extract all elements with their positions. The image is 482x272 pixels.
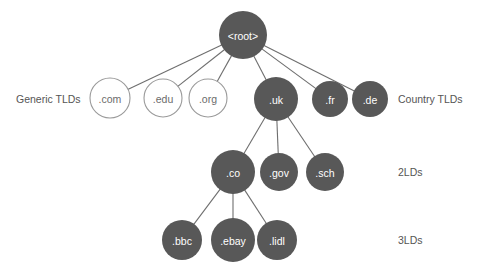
node-fr[interactable]: .fr: [312, 81, 348, 117]
node-label-lidl: .lidl: [269, 235, 285, 247]
node-gov[interactable]: .gov: [260, 153, 298, 191]
node-label-co: .co: [226, 167, 240, 179]
node-co[interactable]: .co: [211, 150, 255, 194]
node-label-ebay: .ebay: [220, 235, 246, 247]
node-sch[interactable]: .sch: [306, 153, 344, 191]
edge-root-to-uk: [254, 55, 267, 80]
edge-co-to-bbc: [193, 189, 220, 225]
side-label-generic-tlds: Generic TLDs: [16, 93, 81, 105]
node-label-edu: .edu: [153, 93, 174, 105]
node-label-gov: .gov: [269, 167, 290, 179]
node-layer: <root>.com.edu.org.uk.fr.de.co.gov.sch.b…: [90, 11, 388, 262]
node-label-de: .de: [363, 94, 378, 106]
side-label-country-tlds: Country TLDs: [398, 93, 463, 105]
edge-uk-to-sch: [288, 116, 315, 157]
node-label-org: .org: [199, 93, 217, 105]
node-de[interactable]: .de: [352, 81, 388, 117]
edge-uk-to-co: [244, 117, 266, 154]
node-label-bbc: .bbc: [172, 235, 192, 247]
node-bbc[interactable]: .bbc: [162, 220, 202, 260]
node-edu[interactable]: .edu: [144, 79, 182, 117]
dns-hierarchy-diagram: <root>.com.edu.org.uk.fr.de.co.gov.sch.b…: [0, 0, 482, 272]
node-label-uk: .uk: [269, 94, 284, 106]
edge-uk-to-gov: [277, 120, 278, 154]
node-label-root: <root>: [228, 30, 258, 42]
side-label-second-level: 2LDs: [398, 166, 423, 178]
edge-layer: [127, 45, 355, 225]
diagram-canvas: <root>.com.edu.org.uk.fr.de.co.gov.sch.b…: [0, 0, 482, 272]
node-lidl[interactable]: .lidl: [257, 220, 297, 260]
node-label-com: .com: [99, 93, 122, 105]
node-com[interactable]: .com: [90, 78, 130, 118]
node-label-fr: .fr: [325, 94, 335, 106]
side-label-third-level: 3LDs: [398, 234, 423, 246]
node-ebay[interactable]: .ebay: [211, 218, 255, 262]
node-root[interactable]: <root>: [219, 11, 267, 59]
edge-root-to-org: [217, 55, 232, 82]
node-label-sch: .sch: [315, 167, 334, 179]
node-uk[interactable]: .uk: [254, 77, 298, 121]
node-org[interactable]: .org: [189, 79, 227, 117]
edge-co-to-lidl: [244, 190, 266, 224]
